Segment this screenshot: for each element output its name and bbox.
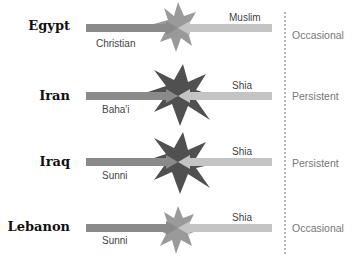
right-group-label: Shia: [232, 212, 252, 223]
country-label-lebanon: Lebanon: [0, 219, 70, 234]
conflict-row-iran: [86, 64, 272, 126]
intensity-label: Occasional: [292, 29, 344, 41]
intensity-label: Occasional: [292, 222, 344, 234]
right-group-label: Shia: [232, 146, 252, 157]
left-group-label: Christian: [96, 38, 135, 49]
intensity-label: Persistent: [292, 90, 339, 102]
country-label-egypt: Egypt: [0, 18, 70, 33]
right-group-label: Muslim: [229, 12, 261, 23]
right-arrow: [190, 92, 272, 100]
left-group-label: Sunni: [102, 170, 128, 181]
right-group-label: Shia: [232, 80, 252, 91]
left-arrow: [86, 158, 166, 166]
left-arrow: [86, 92, 166, 100]
conflict-row-iraq: [86, 132, 272, 194]
right-arrow: [190, 24, 272, 32]
intensity-label: Persistent: [292, 157, 339, 169]
left-group-label: Baha'i: [102, 104, 130, 115]
country-label-iraq: Iraq: [0, 154, 70, 169]
left-group-label: Sunni: [102, 235, 128, 246]
right-arrow: [190, 224, 272, 232]
left-arrow: [86, 224, 166, 232]
country-label-iran: Iran: [0, 88, 70, 103]
right-arrow: [190, 158, 272, 166]
left-arrow: [86, 24, 166, 32]
